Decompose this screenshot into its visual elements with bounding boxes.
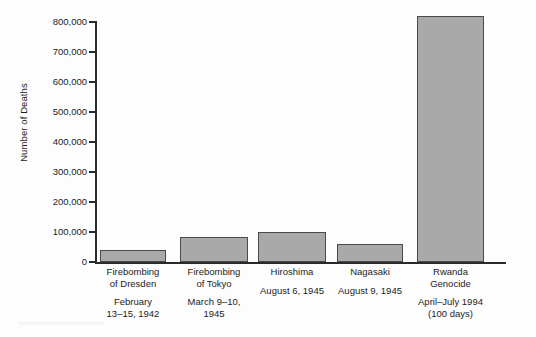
category-date: April–July 1994(100 days) <box>397 296 505 319</box>
category-date-line: (100 days) <box>397 308 505 320</box>
bar <box>180 237 248 263</box>
bar <box>337 244 403 262</box>
category-date-line: April–July 1994 <box>397 296 505 308</box>
bar <box>258 232 326 262</box>
category-date-line: March 9–10, <box>160 296 268 308</box>
category-date-line: 1945 <box>160 308 268 320</box>
category-name: Genocide <box>397 278 505 290</box>
x-axis-category-label: RwandaGenocideApril–July 1994(100 days) <box>397 266 505 319</box>
bar <box>100 250 166 262</box>
scan-artifact <box>18 322 104 325</box>
bar <box>417 16 484 262</box>
category-date: March 9–10,1945 <box>160 296 268 319</box>
bar-chart: Number of Deaths 0100,000200,000300,0004… <box>0 0 536 337</box>
bars-layer <box>0 0 536 263</box>
category-name: Rwanda <box>397 266 505 278</box>
